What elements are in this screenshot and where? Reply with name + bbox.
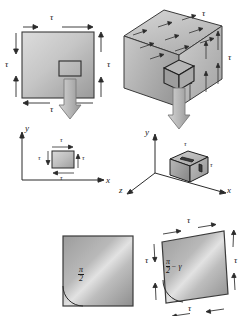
top-left-tau-bottom: τ xyxy=(50,105,53,114)
top-left-tau-top: τ xyxy=(50,13,53,22)
mid-left-axes-svg xyxy=(0,118,120,196)
panel-mid-right-element-axes: y z x τ τ xyxy=(118,126,242,200)
mid-right-axis-z-label: z xyxy=(119,186,123,195)
panel-mid-left-element-axes: y x τ τ τ τ xyxy=(0,118,120,196)
sheared-tau-top: τ xyxy=(187,216,190,225)
mid-left-tau-bottom: τ xyxy=(60,175,63,182)
mid-left-axis-x-label: x xyxy=(106,176,110,185)
mid-left-tau-top: τ xyxy=(60,137,63,144)
panel-top-left-block: τ τ τ τ xyxy=(0,0,120,120)
undeformed-face xyxy=(63,236,133,306)
right-edge-arrows xyxy=(99,32,104,97)
panel-bottom-right-sheared: π 2 − γ τ τ τ τ xyxy=(145,214,242,316)
sheared-tau-right: τ xyxy=(234,256,237,265)
axis-x xyxy=(22,178,104,182)
sheared-angle-denominator: 2 xyxy=(166,266,170,275)
top-left-block-svg xyxy=(0,0,120,120)
panel-bottom-left-undeformed: π 2 xyxy=(55,228,145,316)
mid-left-tau-left: τ xyxy=(38,155,41,162)
mid-left-axis-y-label: y xyxy=(25,124,29,133)
axis-y xyxy=(20,132,24,180)
top-right-cube-svg xyxy=(118,0,242,132)
cube-tau-right: τ xyxy=(228,53,231,62)
sheared-element-svg xyxy=(145,214,242,316)
axis-y-3d xyxy=(153,134,157,173)
bottom-edge-arrows xyxy=(23,101,93,106)
sheared-angle-fraction: π 2 xyxy=(166,258,170,276)
mid-right-axis-x-label: x xyxy=(227,186,231,195)
mid-right-tau-right: τ xyxy=(210,162,213,169)
mid-right-axes-svg xyxy=(118,126,242,200)
mid-left-tau-right: τ xyxy=(82,155,85,162)
top-left-tau-left: τ xyxy=(5,60,8,69)
undeformed-angle-denominator: 2 xyxy=(78,274,84,283)
undeformed-angle-numerator: π xyxy=(78,266,84,274)
undeformed-square-svg xyxy=(55,228,145,316)
top-edge-arrows xyxy=(23,25,93,30)
axis-z-3d xyxy=(127,173,155,194)
undeformed-angle-label: π 2 xyxy=(78,266,84,284)
panel-top-right-cube: τ τ xyxy=(118,0,242,132)
left-edge-arrows xyxy=(14,33,19,97)
sheared-bottom-arrows xyxy=(172,309,224,316)
element-face xyxy=(52,151,74,168)
cube-tau-top: τ xyxy=(202,9,205,18)
mid-right-axis-y-label: y xyxy=(145,128,149,137)
mid-right-tau-top: τ xyxy=(184,141,187,148)
sheared-tau-left: τ xyxy=(145,256,148,265)
block-face xyxy=(22,32,94,98)
sheared-left-arrows xyxy=(153,244,158,300)
sheared-angle-label: π 2 − γ xyxy=(166,258,182,276)
sheared-angle-tail: − γ xyxy=(171,262,182,271)
top-left-tau-right: τ xyxy=(107,60,110,69)
sheared-tau-bottom: τ xyxy=(188,304,191,313)
sheared-angle-numerator: π xyxy=(166,258,170,266)
